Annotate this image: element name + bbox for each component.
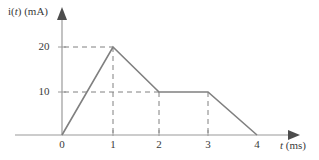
current-waveform-figure: i(t) (mA) t (ms) 20 10 0 1 2 3 4 [0, 0, 319, 160]
y-axis-label-prefix: i( [8, 5, 15, 17]
plot-area [0, 0, 319, 160]
y-axis-label: i(t) (mA) [8, 6, 48, 17]
x-axis-label-unit: (ms) [283, 139, 306, 151]
y-tick-label-10: 10 [35, 86, 53, 97]
x-tick-label-1: 1 [106, 139, 120, 150]
y-axis-label-suffix: ) (mA) [18, 5, 48, 17]
x-tick-label-4: 4 [250, 139, 264, 150]
y-axis-arrowhead [57, 7, 67, 20]
x-tick-label-0: 0 [55, 139, 69, 150]
x-tick-label-3: 3 [201, 139, 215, 150]
x-axis-label: t (ms) [280, 140, 306, 151]
x-tick-label-2: 2 [152, 139, 166, 150]
y-tick-label-20: 20 [35, 41, 53, 52]
